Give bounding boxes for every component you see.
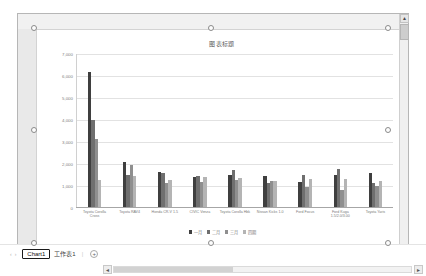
legend-item[interactable]: 二月: [207, 229, 220, 235]
selection-handle-top-center[interactable]: [208, 25, 214, 31]
bar-group[interactable]: [288, 54, 323, 207]
x-axis-category-labels: Toyota Corolla CrossToyota RAV4Honda CR-…: [77, 210, 393, 226]
sheet-tab-chart1[interactable]: Chart1: [22, 249, 50, 259]
scroll-right-arrow[interactable]: ►: [414, 265, 423, 274]
left-gutter: [18, 29, 36, 253]
legend-item[interactable]: 一月: [189, 229, 202, 235]
horizontal-scrollbar[interactable]: ◄ ►: [0, 263, 426, 276]
x-axis-line: [76, 207, 393, 208]
selection-handle-bottom-left[interactable]: [31, 240, 37, 246]
y-tick-label: 4,000: [62, 118, 73, 123]
scroll-left-arrow[interactable]: ◄: [103, 265, 112, 274]
x-category-label: Toyota Corolla Cross: [77, 210, 112, 226]
bar[interactable]: [309, 179, 312, 207]
selection-handle-middle-right[interactable]: [385, 127, 391, 133]
legend-swatch: [243, 230, 247, 234]
sheet-nav-prev-icon[interactable]: ‹: [10, 251, 12, 257]
selection-handle-bottom-right[interactable]: [385, 240, 391, 246]
x-category-label: CIVIC Venza: [182, 210, 217, 226]
chart-legend[interactable]: 一月二月三月四期: [37, 229, 407, 235]
x-category-label: Toyota RAV4: [112, 210, 147, 226]
x-category-label: Ford Kuga 1.5/2.0/3.00: [323, 210, 358, 226]
chart-sheet-area[interactable]: 图表标题 7,0006,0005,0004,0003,0002,0001,000…: [17, 13, 409, 245]
chart-object[interactable]: 图表标题 7,0006,0005,0004,0003,0002,0001,000…: [36, 29, 408, 253]
selection-handle-middle-left[interactable]: [31, 127, 37, 133]
vertical-scroll-thumb[interactable]: [400, 24, 409, 40]
y-tick-label: 7,000: [62, 52, 73, 57]
legend-swatch: [189, 230, 193, 234]
y-tick-label: 3,000: [62, 140, 73, 145]
legend-swatch: [225, 230, 229, 234]
y-tick-label: 5,000: [62, 96, 73, 101]
bar[interactable]: [168, 180, 171, 207]
legend-label: 一月: [194, 229, 202, 235]
bar[interactable]: [133, 176, 136, 207]
bar[interactable]: [238, 178, 241, 208]
bar[interactable]: [203, 177, 206, 207]
x-category-label: Honda CR-V 1.5: [147, 210, 182, 226]
y-tick-label: 0: [71, 206, 73, 211]
vertical-scrollbar[interactable]: ▲: [399, 14, 408, 244]
bar[interactable]: [344, 179, 347, 207]
sheet-tab-bar[interactable]: ‹ › Chart1 工作表1 | +: [0, 244, 426, 262]
x-category-label: Ford Focus: [288, 210, 323, 226]
bar-group[interactable]: [253, 54, 288, 207]
bar-group[interactable]: [323, 54, 358, 207]
sheet-nav-next-icon[interactable]: ›: [15, 251, 17, 257]
chart-title[interactable]: 图表标题: [37, 39, 407, 48]
bar-group[interactable]: [147, 54, 182, 207]
bar[interactable]: [98, 180, 101, 207]
bar-group[interactable]: [77, 54, 112, 207]
selection-handle-bottom-center[interactable]: [208, 240, 214, 246]
y-tick-label: 1,000: [62, 184, 73, 189]
bar-group[interactable]: [217, 54, 252, 207]
bar[interactable]: [273, 181, 276, 207]
plot-area[interactable]: 7,0006,0005,0004,0003,0002,0001,0000: [77, 54, 393, 208]
horizontal-scroll-track[interactable]: [113, 266, 412, 273]
x-category-label: Nissan Kicks 1.0: [253, 210, 288, 226]
add-sheet-button[interactable]: +: [90, 250, 98, 258]
legend-label: 四期: [248, 229, 256, 235]
legend-item[interactable]: 三月: [225, 229, 238, 235]
y-tick-label: 6,000: [62, 74, 73, 79]
y-tick-label: 2,000: [62, 162, 73, 167]
legend-item[interactable]: 四期: [243, 229, 256, 235]
bar-group[interactable]: [182, 54, 217, 207]
sheet-tab-worksheet1[interactable]: 工作表1: [50, 248, 79, 259]
legend-label: 三月: [230, 229, 238, 235]
horizontal-scroll-thumb[interactable]: [114, 267, 233, 272]
legend-label: 二月: [212, 229, 220, 235]
x-category-label: Toyota Corolla Hbk: [217, 210, 252, 226]
sheet-nav-arrows[interactable]: ‹ ›: [10, 251, 16, 257]
x-category-label: Toyota Yaris: [358, 210, 393, 226]
excel-chart-window: 图表标题 7,0006,0005,0004,0003,0002,0001,000…: [0, 0, 426, 276]
scroll-up-arrow[interactable]: ▲: [400, 14, 409, 23]
selection-handle-top-right[interactable]: [385, 25, 391, 31]
bar-series-container[interactable]: [77, 54, 393, 207]
bar-group[interactable]: [112, 54, 147, 207]
selection-handle-top-left[interactable]: [31, 25, 37, 31]
tab-separator: |: [82, 251, 84, 257]
legend-swatch: [207, 230, 211, 234]
bar[interactable]: [379, 181, 382, 207]
